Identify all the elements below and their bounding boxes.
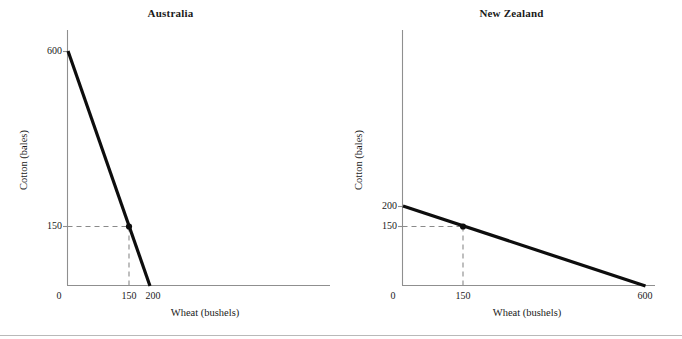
x-tick-label-0-australia: 0 (57, 290, 62, 302)
ppf-line-newzealand (403, 206, 646, 286)
plot-area-newzealand (341, 0, 682, 330)
x-axis-title-australia: Wheat (bushels) (171, 306, 240, 319)
x-tick-label-0-newzealand: 0 (391, 290, 396, 302)
x-axis-title-newzealand: Wheat (bushels) (493, 306, 562, 319)
two-panel-ppf-figure: Australia 600 150 0 150 200 Wheat (bushe… (0, 0, 682, 339)
x-tick-label-150-australia: 150 (122, 290, 137, 302)
y-tick-label-200-newzealand: 200 (355, 200, 397, 212)
y-tick-label-150-newzealand: 150 (355, 220, 397, 232)
production-point-newzealand (460, 223, 466, 229)
footer-divider (0, 335, 682, 336)
production-point-australia (126, 223, 132, 229)
x-tick-label-150-newzealand: 150 (456, 290, 471, 302)
y-tick-label-150-australia: 150 (20, 220, 62, 232)
x-tick-label-200-australia: 200 (146, 290, 161, 302)
chart-panel-australia: Australia 600 150 0 150 200 Wheat (bushe… (0, 0, 341, 330)
ppf-line-australia (68, 51, 150, 286)
y-tick-label-600-australia: 600 (20, 45, 62, 57)
x-tick-label-600-newzealand: 600 (638, 290, 653, 302)
y-axis-title-newzealand: Cotton (bales) (352, 130, 365, 190)
y-axis-title-australia: Cotton (bales) (17, 130, 30, 190)
chart-panel-newzealand: New Zealand 200 150 0 150 600 Wheat (bus… (341, 0, 682, 330)
